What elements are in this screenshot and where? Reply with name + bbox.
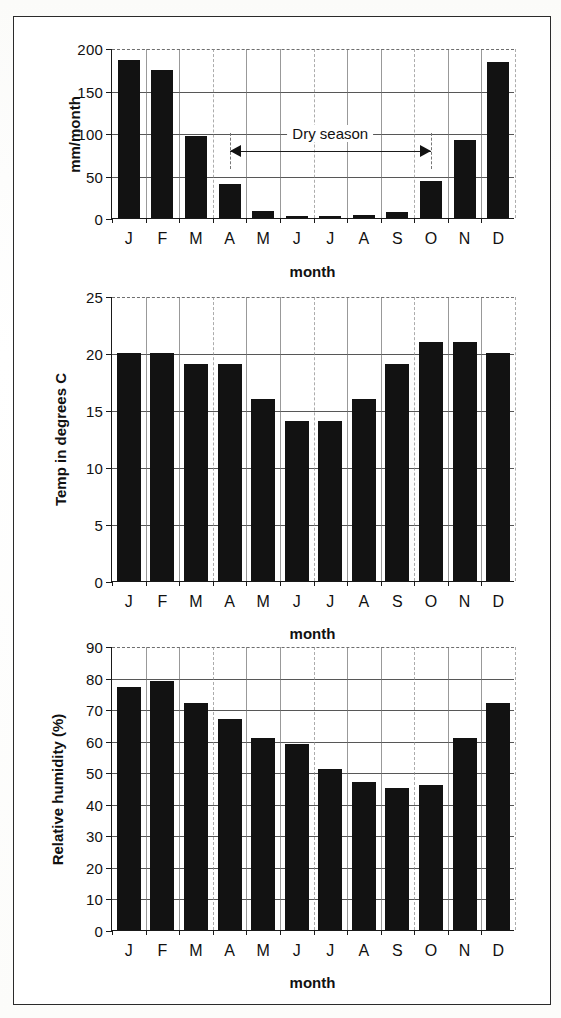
x-axis-tick bbox=[146, 581, 147, 586]
y-axis-tick-label: 40 bbox=[86, 796, 103, 813]
x-axis-tick-label: J bbox=[125, 593, 133, 611]
bar-rainfall-7 bbox=[353, 215, 375, 218]
vertical-gridline bbox=[448, 297, 449, 581]
bar-temperature-7 bbox=[352, 399, 376, 581]
y-axis-tick bbox=[106, 679, 112, 680]
vertical-gridline bbox=[146, 297, 147, 581]
x-axis-tick bbox=[179, 581, 180, 586]
x-axis-tick-label: O bbox=[425, 942, 437, 960]
x-axis-tick-label: A bbox=[359, 593, 370, 611]
temperature-plot-area: 0510152025JFMAMJJASOND bbox=[111, 297, 514, 582]
x-axis-tick bbox=[112, 581, 113, 586]
dry-season-label: Dry season bbox=[287, 125, 373, 142]
y-axis-tick-label: 5 bbox=[94, 517, 103, 534]
x-axis-tick bbox=[481, 581, 482, 586]
figure-border: mm/month 050100150200JFMAMJJASONDDry sea… bbox=[13, 16, 551, 1005]
x-axis-tick-label: M bbox=[256, 593, 269, 611]
x-axis-tick-label: A bbox=[224, 230, 235, 248]
bar-humidity-3 bbox=[218, 719, 242, 930]
chart-rainfall: mm/month 050100150200JFMAMJJASONDDry sea… bbox=[14, 31, 552, 271]
vertical-gridline bbox=[448, 49, 449, 218]
bar-rainfall-1 bbox=[151, 70, 173, 218]
x-axis-tick-label: A bbox=[359, 230, 370, 248]
vertical-gridline bbox=[179, 647, 180, 930]
x-axis-tick bbox=[381, 581, 382, 586]
x-axis-tick bbox=[347, 218, 348, 223]
bar-temperature-8 bbox=[385, 364, 409, 581]
x-axis-tick-label: F bbox=[157, 593, 167, 611]
y-axis-tick-label: 10 bbox=[86, 460, 103, 477]
y-axis-tick bbox=[106, 899, 112, 900]
x-axis-tick bbox=[381, 218, 382, 223]
y-axis-tick-label: 10 bbox=[86, 891, 103, 908]
vertical-gridline bbox=[280, 49, 281, 218]
dry-season-endpoint-left bbox=[230, 133, 231, 169]
x-axis-tick-label: J bbox=[293, 230, 301, 248]
bar-temperature-1 bbox=[150, 353, 174, 581]
plot-right-edge bbox=[515, 49, 516, 218]
bar-humidity-0 bbox=[117, 687, 141, 930]
bar-temperature-2 bbox=[184, 364, 208, 581]
bar-temperature-9 bbox=[419, 342, 443, 581]
plot-right-edge bbox=[515, 297, 516, 581]
x-axis-tick bbox=[414, 930, 415, 935]
x-axis-tick bbox=[314, 218, 315, 223]
bar-rainfall-0 bbox=[118, 60, 140, 218]
vertical-gridline bbox=[414, 297, 415, 581]
bar-rainfall-3 bbox=[219, 184, 241, 218]
vertical-gridline bbox=[448, 647, 449, 930]
vertical-gridline bbox=[146, 49, 147, 218]
bar-rainfall-6 bbox=[319, 216, 341, 218]
figure-page: mm/month 050100150200JFMAMJJASONDDry sea… bbox=[0, 0, 561, 1018]
vertical-gridline bbox=[179, 49, 180, 218]
bar-humidity-6 bbox=[318, 769, 342, 930]
x-axis-tick-label: S bbox=[392, 593, 403, 611]
y-axis-tick-label: 60 bbox=[86, 733, 103, 750]
bar-humidity-2 bbox=[184, 703, 208, 930]
x-axis-tick-label: M bbox=[256, 230, 269, 248]
x-axis-tick bbox=[448, 218, 449, 223]
x-axis-tick bbox=[280, 218, 281, 223]
vertical-gridline bbox=[213, 49, 214, 218]
x-axis-tick-label: A bbox=[224, 942, 235, 960]
y-axis-tick bbox=[106, 805, 112, 806]
vertical-gridline bbox=[246, 297, 247, 581]
vertical-gridline bbox=[381, 297, 382, 581]
x-axis-tick bbox=[481, 930, 482, 935]
x-axis-tick-label: J bbox=[293, 593, 301, 611]
bar-temperature-0 bbox=[117, 353, 141, 581]
x-axis-tick bbox=[213, 581, 214, 586]
y-axis-tick bbox=[106, 177, 112, 178]
y-axis-tick-label: 20 bbox=[86, 346, 103, 363]
x-axis-tick-label: F bbox=[157, 942, 167, 960]
bar-rainfall-2 bbox=[185, 136, 207, 218]
x-axis-tick-label: J bbox=[326, 942, 334, 960]
x-axis-tick-label: J bbox=[326, 593, 334, 611]
x-axis-tick bbox=[347, 581, 348, 586]
bar-humidity-5 bbox=[285, 744, 309, 930]
x-axis-tick-label: O bbox=[425, 230, 437, 248]
y-axis-tick bbox=[106, 411, 112, 412]
x-axis-tick bbox=[112, 930, 113, 935]
vertical-gridline bbox=[481, 49, 482, 218]
x-axis-tick-label: J bbox=[326, 230, 334, 248]
x-axis-tick-label: J bbox=[293, 942, 301, 960]
vertical-gridline bbox=[347, 297, 348, 581]
y-axis-tick-label: 0 bbox=[94, 211, 103, 228]
bar-rainfall-9 bbox=[420, 181, 442, 218]
vertical-gridline bbox=[280, 647, 281, 930]
vertical-gridline bbox=[213, 297, 214, 581]
y-axis-tick-label: 100 bbox=[77, 126, 103, 143]
bar-humidity-4 bbox=[251, 738, 275, 930]
x-axis-tick bbox=[280, 581, 281, 586]
y-axis-tick-label: 0 bbox=[94, 923, 103, 940]
x-axis-tick-label: O bbox=[425, 593, 437, 611]
bar-rainfall-10 bbox=[454, 140, 476, 218]
bar-temperature-3 bbox=[218, 364, 242, 581]
bar-humidity-1 bbox=[150, 681, 174, 930]
bar-humidity-11 bbox=[486, 703, 510, 930]
bar-rainfall-11 bbox=[487, 62, 509, 218]
y-axis-tick bbox=[106, 525, 112, 526]
x-axis-tick bbox=[414, 218, 415, 223]
x-axis-tick-label: M bbox=[189, 230, 202, 248]
